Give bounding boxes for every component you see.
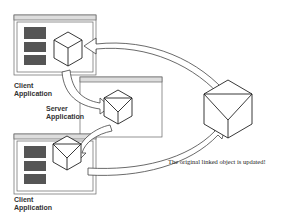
caption: The original linked object is updated! xyxy=(168,158,266,165)
label-server: Server Application xyxy=(46,105,84,121)
cube-client-bottom xyxy=(53,136,81,170)
label-client-bottom: Client Application xyxy=(14,196,52,212)
label-client-top: Client Application xyxy=(14,82,52,98)
diagram-graphics xyxy=(0,0,283,217)
cube-client-top xyxy=(54,32,82,66)
linked-object-diagram: Client Application Server Application Cl… xyxy=(0,0,283,217)
cube-original xyxy=(204,80,252,138)
cube-server xyxy=(104,90,132,124)
